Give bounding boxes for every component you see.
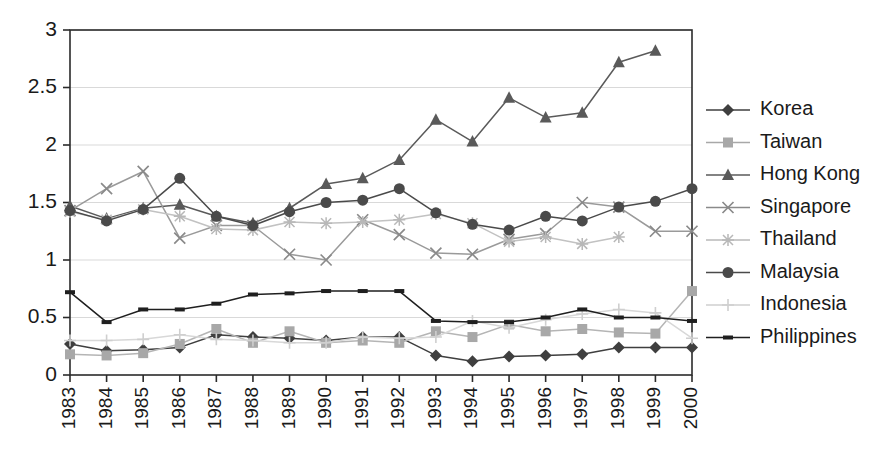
marker-x — [394, 229, 405, 240]
marker-circle — [394, 183, 405, 194]
marker-star — [722, 234, 734, 246]
legend-item-korea[interactable]: Korea — [706, 97, 814, 119]
marker-diamond — [576, 348, 588, 360]
x-tick-label: 1983 — [58, 387, 79, 429]
x-tick-label: 1990 — [314, 387, 335, 429]
x-tick-label: 1991 — [351, 387, 372, 429]
y-tick-label: 2.5 — [28, 74, 57, 97]
legend-label: Philippines — [760, 325, 857, 347]
legend-item-thailand[interactable]: Thailand — [706, 227, 837, 249]
marker-x — [174, 233, 185, 244]
marker-dash — [321, 289, 331, 293]
marker-dash — [102, 320, 112, 324]
series-korea — [64, 329, 698, 367]
marker-diamond — [613, 341, 625, 353]
marker-dash — [687, 319, 697, 323]
marker-star — [174, 210, 186, 222]
marker-diamond — [540, 349, 552, 361]
legend-item-malaysia[interactable]: Malaysia — [706, 260, 840, 282]
marker-dash — [577, 307, 587, 311]
x-axis-tick-labels: 1983198419851986198719881989199019911992… — [58, 387, 701, 430]
x-tick-label: 1996 — [534, 387, 555, 429]
marker-dash — [175, 307, 185, 311]
series-line — [70, 171, 692, 260]
marker-square — [285, 326, 295, 336]
x-tick-label: 1985 — [131, 387, 152, 429]
x-tick-label: 2000 — [680, 387, 701, 429]
series-line — [70, 309, 692, 342]
marker-dash — [211, 302, 221, 306]
y-tick-label: 3 — [45, 17, 57, 40]
legend-item-singapore[interactable]: Singapore — [706, 195, 851, 217]
marker-circle — [284, 206, 295, 217]
chart-legend: KoreaTaiwanHong KongSingaporeThailandMal… — [706, 97, 860, 347]
x-tick-label: 1997 — [570, 387, 591, 429]
marker-circle — [650, 196, 661, 207]
marker-dash — [650, 316, 660, 320]
x-tick-label: 1999 — [643, 387, 664, 429]
marker-diamond — [466, 355, 478, 367]
legend-item-philippines[interactable]: Philippines — [706, 325, 857, 347]
marker-plus — [686, 332, 698, 344]
marker-star — [503, 236, 515, 248]
marker-dash — [358, 289, 368, 293]
marker-square — [687, 286, 697, 296]
marker-triangle — [503, 91, 515, 103]
marker-dash — [504, 320, 514, 324]
marker-circle — [321, 197, 332, 208]
x-tick-label: 1986 — [168, 387, 189, 429]
marker-circle — [613, 202, 624, 213]
series-taiwan — [65, 286, 697, 360]
x-tick-label: 1984 — [95, 387, 116, 430]
series-singapore — [65, 166, 698, 266]
marker-diamond — [722, 104, 734, 116]
marker-square — [65, 349, 75, 359]
series-philippines — [65, 289, 697, 324]
legend-label: Singapore — [760, 195, 851, 217]
marker-x — [138, 166, 149, 177]
marker-square — [211, 324, 221, 334]
marker-plus — [613, 303, 625, 315]
marker-circle — [430, 207, 441, 218]
legend-label: Taiwan — [760, 130, 822, 152]
marker-diamond — [430, 349, 442, 361]
marker-circle — [247, 220, 258, 231]
legend-label: Indonesia — [760, 292, 848, 314]
legend-item-taiwan[interactable]: Taiwan — [706, 130, 822, 152]
y-tick-label: 1 — [45, 247, 57, 270]
legend-label: Korea — [760, 97, 814, 119]
y-axis-tick-labels: 00.511.522.53 — [28, 17, 57, 385]
marker-square — [102, 350, 112, 360]
chart-container: 00.511.522.53 19831984198519861987198819… — [0, 0, 880, 459]
marker-diamond — [649, 341, 661, 353]
marker-dash — [285, 291, 295, 295]
y-tick-label: 0.5 — [28, 304, 57, 327]
marker-dash — [138, 307, 148, 311]
marker-dash — [65, 290, 75, 294]
marker-dash — [723, 336, 733, 340]
legend-label: Hong Kong — [760, 162, 860, 184]
marker-dash — [394, 289, 404, 293]
marker-star — [393, 214, 405, 226]
marker-star — [576, 238, 588, 250]
marker-triangle — [430, 113, 442, 125]
series-malaysia — [65, 173, 698, 236]
marker-circle — [577, 215, 588, 226]
marker-circle — [174, 173, 185, 184]
marker-circle — [687, 183, 698, 194]
marker-circle — [65, 205, 76, 216]
marker-dash — [431, 319, 441, 323]
marker-plus — [722, 299, 734, 311]
legend-item-indonesia[interactable]: Indonesia — [706, 292, 848, 314]
marker-square — [467, 332, 477, 342]
x-tick-label: 1989 — [278, 387, 299, 429]
marker-square — [541, 326, 551, 336]
legend-label: Malaysia — [760, 260, 840, 282]
marker-circle — [357, 195, 368, 206]
marker-triangle — [174, 198, 186, 210]
legend-item-hong-kong[interactable]: Hong Kong — [706, 162, 860, 184]
marker-circle — [211, 211, 222, 222]
x-tick-label: 1995 — [497, 387, 518, 429]
marker-square — [614, 327, 624, 337]
marker-plus — [137, 333, 149, 345]
